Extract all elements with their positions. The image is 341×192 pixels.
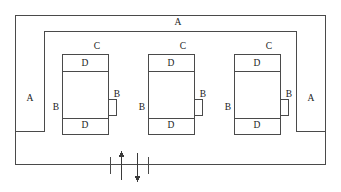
unit-2 (149, 55, 203, 135)
bottom-pipe (16, 157, 326, 174)
label-c-unit-1: C (94, 42, 101, 52)
label-c-unit-3: C (266, 42, 273, 52)
unit-1-b-bracket (109, 100, 117, 116)
label-d-bottom-1: D (81, 121, 88, 131)
label-d-top-1: D (81, 59, 88, 69)
label-d-bottom-3: D (253, 121, 260, 131)
label-b-left-2: B (139, 103, 146, 113)
label-a-right: A (307, 94, 314, 104)
label-b-right-1: B (114, 90, 121, 100)
label-b-left-3: B (225, 103, 232, 113)
diagram-canvas: A A A C C C D D D D D D B B B B B B (0, 0, 341, 192)
inner-boundary-rail (45, 32, 297, 132)
label-b-left-1: B (53, 103, 60, 113)
label-d-top-2: D (167, 59, 174, 69)
label-d-bottom-2: D (167, 121, 174, 131)
unit-3 (235, 55, 289, 135)
unit-3-b-bracket (281, 100, 289, 116)
unit-1 (63, 55, 117, 135)
unit-2-b-bracket (195, 100, 203, 116)
label-d-top-3: D (253, 59, 260, 69)
label-b-right-3: B (286, 90, 293, 100)
label-a-top: A (174, 18, 181, 28)
label-b-right-2: B (200, 90, 207, 100)
label-a-left: A (26, 94, 33, 104)
flow-arrow-down (135, 153, 141, 183)
label-c-unit-2: C (180, 42, 187, 52)
